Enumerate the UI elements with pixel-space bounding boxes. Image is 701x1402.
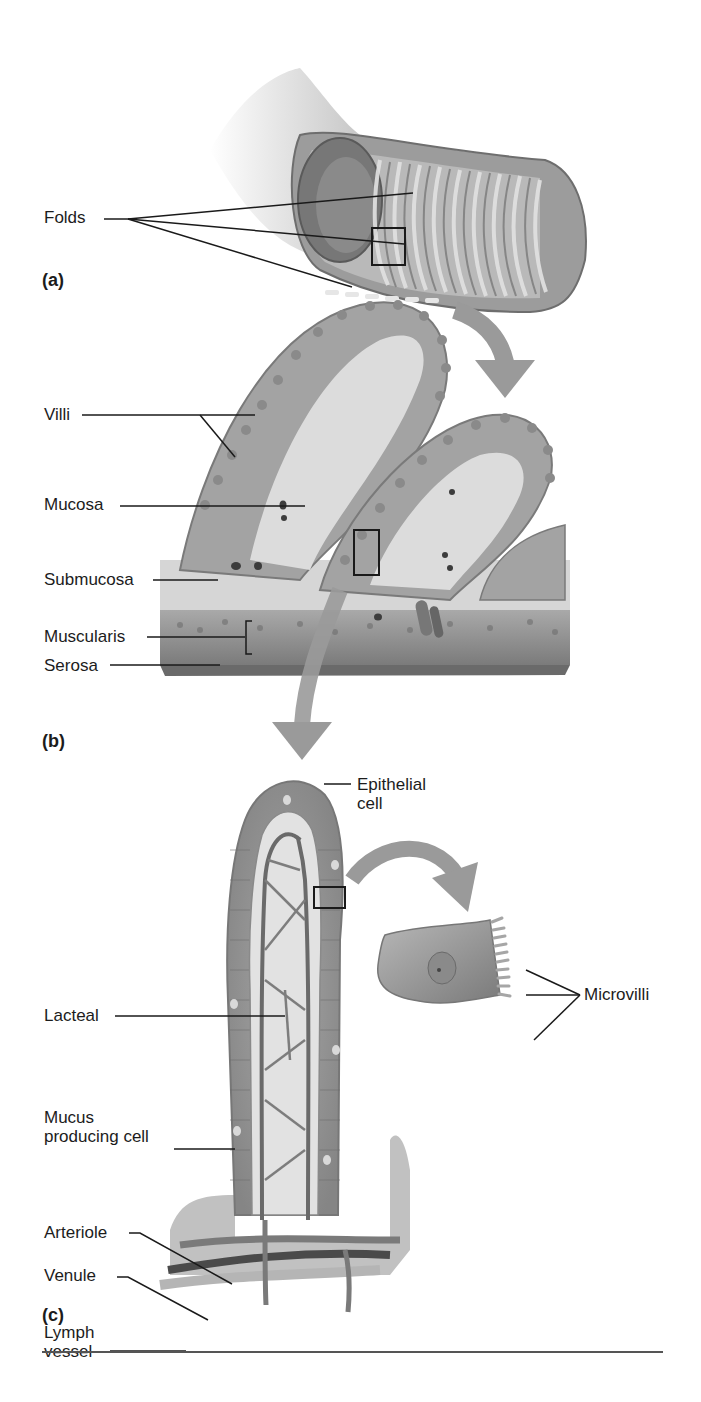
figure-stage: (a) (b) (c) Folds Villi Mucosa Submucosa… [0,0,701,1402]
label-microvilli: Microvilli [584,985,649,1004]
label-serosa: Serosa [44,656,98,675]
label-lymph-line1: Lymph [44,1323,94,1342]
arrow-a-to-b-icon [455,310,535,398]
label-folds: Folds [44,208,86,227]
label-muscularis: Muscularis [44,627,125,646]
label-lymph-vessel: Lymph vessel [44,1323,94,1361]
arrow-villus-to-cell-icon [352,849,478,912]
label-mucus-producing-cell: Mucus producing cell [44,1108,149,1146]
label-epithelial-cell-line1: Epithelial [357,775,426,794]
label-villi: Villi [44,405,70,424]
label-epithelial-cell-line2: cell [357,794,426,813]
diagram-illustration [0,0,701,1402]
intestine-segment-illustration [210,68,586,312]
label-epithelial-cell: Epithelial cell [357,775,426,813]
label-arteriole: Arteriole [44,1223,107,1242]
label-mucosa: Mucosa [44,495,104,514]
label-venule: Venule [44,1266,96,1285]
bottom-divider [42,1351,663,1353]
panel-label-a: (a) [42,270,64,291]
label-mucus-line1: Mucus [44,1108,149,1127]
panel-label-b: (b) [42,731,65,752]
epithelial-cell-illustration [378,918,510,1003]
label-mucus-line2: producing cell [44,1127,149,1146]
label-lacteal: Lacteal [44,1006,99,1025]
label-submucosa: Submucosa [44,570,134,589]
